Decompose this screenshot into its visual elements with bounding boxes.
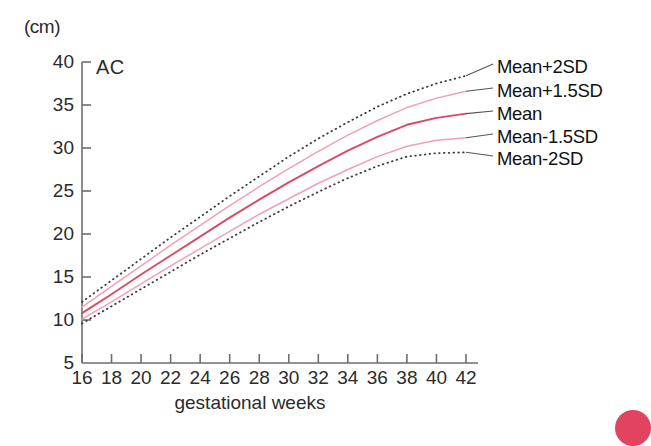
corner-dot-mark (615, 410, 651, 446)
legend-leader-line (466, 152, 493, 156)
y-axis-tick-label: 30 (30, 137, 74, 159)
axis-lines (82, 62, 478, 363)
series-line (82, 76, 466, 302)
chart-title-ac: AC (96, 56, 125, 79)
data-series-lines (82, 76, 466, 324)
legend-leader-line (466, 111, 493, 114)
series-line (82, 138, 466, 319)
y-axis-unit-label: (cm) (24, 16, 60, 38)
legend-leader-line (466, 88, 493, 91)
y-axis-tick-label: 40 (30, 51, 74, 73)
x-axis-tick-label: 42 (446, 367, 486, 389)
legend-label-3: Mean (497, 103, 542, 125)
legend-leader-line (466, 64, 493, 76)
legend-leader-lines (466, 64, 493, 156)
legend-label-4: Mean-1.5SD (497, 126, 598, 148)
legend-leader-line (466, 134, 493, 138)
x-axis-title: gestational weeks (0, 392, 500, 414)
y-axis-tick-label: 25 (30, 180, 74, 202)
y-axis-tick-label: 10 (30, 309, 74, 331)
legend-label-2: Mean+1.5SD (497, 80, 603, 102)
y-axis-tick-label: 35 (30, 94, 74, 116)
y-axis-tick-label: 20 (30, 223, 74, 245)
legend-label-1: Mean+2SD (497, 56, 588, 78)
y-axis-tick-label: 15 (30, 266, 74, 288)
legend-label-5: Mean-2SD (497, 148, 583, 170)
